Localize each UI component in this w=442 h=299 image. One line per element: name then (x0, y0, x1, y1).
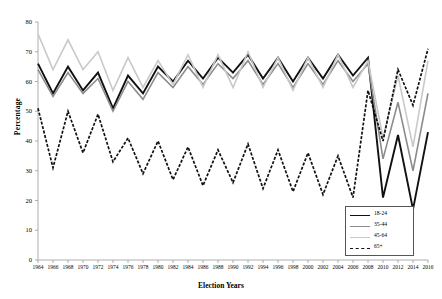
legend-swatch-35-44 (350, 226, 370, 227)
legend-label: 18-24 (374, 210, 387, 216)
chart-container: Percentage Election Years 01020304050607… (0, 0, 442, 299)
y-axis-tick: 80 (14, 18, 32, 25)
y-axis-tick: 70 (14, 48, 32, 55)
y-axis-tick: 30 (14, 167, 32, 174)
chart-series-group (38, 34, 428, 210)
y-axis-tick: 10 (14, 226, 32, 233)
legend-swatch-65+ (350, 248, 370, 249)
y-axis-tick: 0 (14, 256, 32, 263)
legend-label: 45-64 (374, 232, 387, 238)
y-axis-tick: 40 (14, 137, 32, 144)
legend-label: 35-44 (374, 221, 387, 227)
chart-legend: 18-2435-4445-6465+ (345, 206, 414, 256)
legend-item-45-64: 45-64 (350, 233, 412, 243)
y-axis-tick: 60 (14, 78, 32, 85)
series-line-45-64 (38, 34, 428, 147)
x-axis-tick: 2016 (415, 264, 441, 270)
y-axis-tick: 50 (14, 107, 32, 114)
y-axis-tick: 20 (14, 197, 32, 204)
legend-item-35-44: 35-44 (350, 222, 412, 232)
legend-label: 65+ (374, 243, 383, 249)
legend-swatch-18-24 (350, 215, 370, 216)
legend-swatch-45-64 (350, 237, 370, 238)
legend-item-65+: 65+ (350, 244, 412, 254)
legend-item-18-24: 18-24 (350, 211, 412, 221)
series-line-35-44 (38, 61, 428, 171)
